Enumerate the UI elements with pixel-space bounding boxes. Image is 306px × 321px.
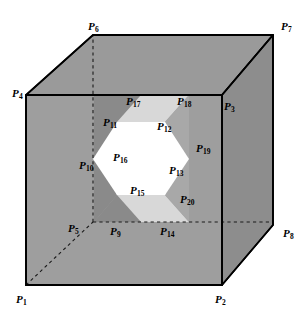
point-label-P11: P11	[103, 117, 117, 128]
point-label-P3: P3	[224, 101, 234, 112]
point-label-P19: P19	[196, 143, 210, 154]
point-label-P14: P14	[160, 226, 174, 237]
cube-hexagonal-tunnel-figure: P1 P2 P3 P4 P5 P6 P7 P8 P9 P10 P11 P12 P…	[0, 0, 306, 321]
point-label-P10: P10	[79, 160, 93, 171]
point-label-P20: P20	[180, 194, 194, 205]
point-label-P1: P1	[16, 294, 26, 305]
cube-diagram-svg	[0, 0, 306, 321]
point-label-P16: P16	[113, 152, 127, 163]
point-label-P2: P2	[215, 294, 225, 305]
point-label-P12: P12	[157, 121, 171, 132]
point-label-P15: P15	[130, 185, 144, 196]
point-label-P9: P9	[110, 226, 120, 237]
point-label-P4: P4	[12, 88, 22, 99]
point-label-P17: P17	[126, 96, 140, 107]
point-label-P13: P13	[169, 165, 183, 176]
point-label-P6: P6	[88, 21, 98, 32]
point-label-P8: P8	[283, 228, 293, 239]
point-label-P5: P5	[68, 223, 78, 234]
point-label-P7: P7	[281, 21, 291, 32]
point-label-P18: P18	[177, 96, 191, 107]
